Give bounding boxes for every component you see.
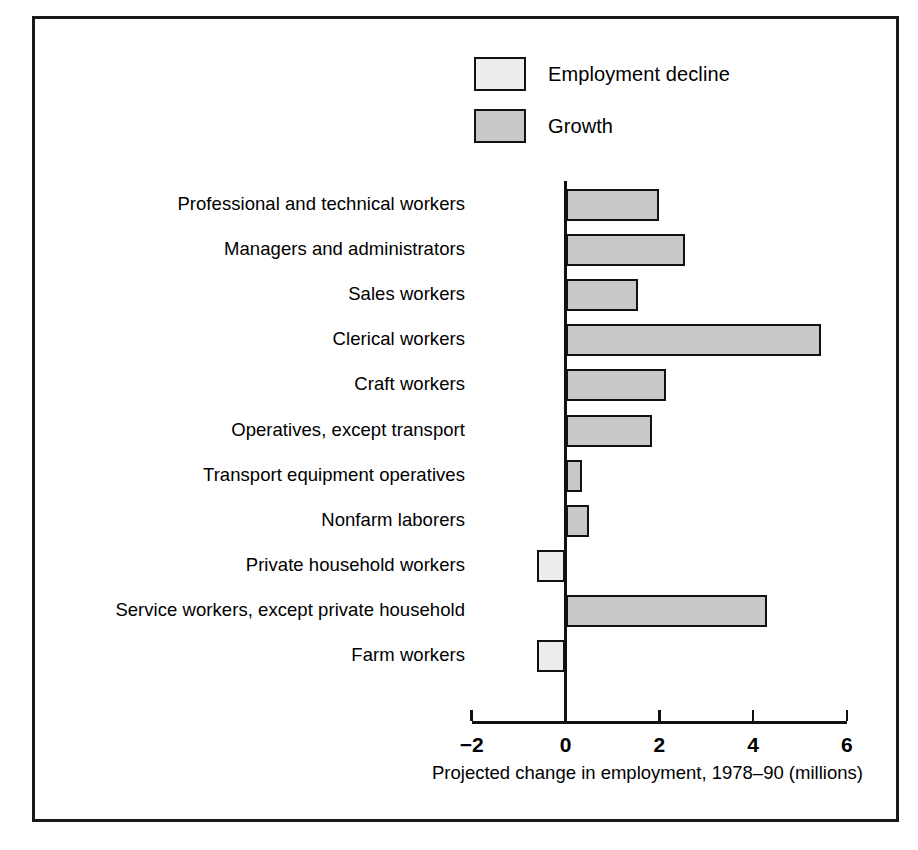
bar-decline [537,640,565,672]
bar-decline [537,550,565,582]
category-label: Private household workers [246,554,465,576]
x-tick-label-3: 4 [747,733,759,757]
bar-growth [566,324,822,356]
x-axis-line [472,721,847,724]
category-label: Professional and technical workers [177,193,465,215]
category-label: Managers and administrators [224,238,465,260]
chart-figure: Employment declineGrowth −20246Professio… [0,0,918,850]
bar-growth [566,189,660,221]
category-label: Nonfarm laborers [321,509,465,531]
bar-growth [566,505,589,537]
x-tick-2 [658,710,661,721]
x-tick-4 [846,710,849,721]
x-tick-label-4: 6 [841,733,853,757]
bar-growth [566,234,686,266]
category-label: Clerical workers [333,328,465,350]
plot-area: −20246Professional and technical workers… [0,0,918,850]
bar-growth [566,415,653,447]
category-label: Craft workers [354,373,465,395]
x-tick-label-2: 2 [653,733,665,757]
category-label: Transport equipment operatives [203,464,465,486]
x-tick-label-0: −2 [460,733,484,757]
category-label: Service workers, except private househol… [115,599,465,621]
bar-growth [566,595,768,627]
x-axis-title: Projected change in employment, 1978–90 … [432,762,863,784]
x-tick-3 [752,710,755,721]
bar-growth [566,460,582,492]
x-tick-label-1: 0 [560,733,572,757]
bar-growth [566,369,667,401]
category-label: Sales workers [348,283,465,305]
x-tick-0 [470,710,473,721]
category-label: Operatives, except transport [231,419,465,441]
bar-growth [566,279,639,311]
category-label: Farm workers [351,644,465,666]
